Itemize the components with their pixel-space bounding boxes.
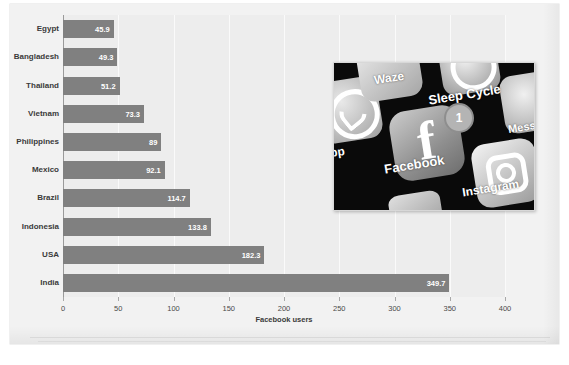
bar-value-label: 349.7 <box>427 278 446 287</box>
x-tick-label: 200 <box>264 304 304 313</box>
instagram-icon <box>469 136 535 209</box>
notification-badge: 1 <box>444 103 474 133</box>
bar-row[interactable]: 73.3 <box>63 105 144 123</box>
bar-row[interactable]: 349.7 <box>63 274 449 292</box>
x-tick-label: 250 <box>319 304 359 313</box>
paper-edge-line <box>30 337 550 338</box>
bar-value-label: 92.1 <box>146 166 161 175</box>
partial-app-icon <box>387 189 445 211</box>
scanned-page: Facebook users, 2022 45.949.351.273.3899… <box>0 0 569 365</box>
category-label-egypt: Egypt <box>0 24 59 33</box>
bar-row[interactable]: 51.2 <box>63 77 120 95</box>
bar-value-label: 51.2 <box>101 81 116 90</box>
category-label-indonesia: Indonesia <box>0 222 59 231</box>
x-tick-label: 300 <box>375 304 415 313</box>
x-tick-label: 50 <box>98 304 138 313</box>
bar-philippines[interactable]: 89 <box>63 133 161 151</box>
bar-value-label: 73.3 <box>125 109 140 118</box>
bar-egypt[interactable]: 45.9 <box>63 20 114 38</box>
x-tick-label: 0 <box>43 304 83 313</box>
bar-mexico[interactable]: 92.1 <box>63 161 165 179</box>
x-tick-label: 150 <box>209 304 249 313</box>
category-label-vietnam: Vietnam <box>0 109 59 118</box>
bar-value-label: 114.7 <box>167 194 185 203</box>
bar-value-label: 45.9 <box>95 25 110 34</box>
category-label-philippines: Philippines <box>0 137 59 146</box>
bar-vietnam[interactable]: 73.3 <box>63 105 144 123</box>
bar-row[interactable]: 45.9 <box>63 20 114 38</box>
x-tick-label: 400 <box>485 304 525 313</box>
bar-row[interactable]: 182.3 <box>63 246 264 264</box>
tick-mark <box>63 297 64 301</box>
paper-edge-line-secondary <box>38 341 546 342</box>
bar-row[interactable]: 89 <box>63 133 161 151</box>
bar-row[interactable]: 49.3 <box>63 48 117 66</box>
category-label-thailand: Thailand <box>0 81 59 90</box>
bar-row[interactable]: 92.1 <box>63 161 165 179</box>
tick-mark <box>174 297 175 301</box>
bar-value-label: 89 <box>149 137 157 146</box>
facebook-app-icon-photo: f 1 Waze Sleep Cycle Mess pp Facebook In… <box>333 62 535 211</box>
tick-mark <box>339 297 340 301</box>
tick-mark <box>229 297 230 301</box>
x-axis-title: Facebook users <box>63 315 505 324</box>
whatsapp-label: pp <box>333 144 346 160</box>
category-label-india: India <box>0 278 59 287</box>
bar-india[interactable]: 349.7 <box>63 274 449 292</box>
bar-value-label: 182.3 <box>242 250 261 259</box>
bar-indonesia[interactable]: 133.8 <box>63 218 211 236</box>
tick-mark <box>450 297 451 301</box>
bar-bangladesh[interactable]: 49.3 <box>63 48 117 66</box>
bar-row[interactable]: 133.8 <box>63 218 211 236</box>
category-label-usa: USA <box>0 250 59 259</box>
category-label-mexico: Mexico <box>0 165 59 174</box>
category-label-brazil: Brazil <box>0 193 59 202</box>
bar-row[interactable]: 114.7 <box>63 189 190 207</box>
bar-value-label: 133.8 <box>188 222 207 231</box>
bar-brazil[interactable]: 114.7 <box>63 189 190 207</box>
tick-mark <box>395 297 396 301</box>
x-tick-label: 350 <box>430 304 470 313</box>
tick-mark <box>284 297 285 301</box>
category-label-bangladesh: Bangladesh <box>0 52 59 61</box>
bar-thailand[interactable]: 51.2 <box>63 77 120 95</box>
tick-mark <box>118 297 119 301</box>
x-tick-label: 100 <box>154 304 194 313</box>
bar-value-label: 49.3 <box>99 53 114 62</box>
tick-mark <box>505 297 506 301</box>
bar-usa[interactable]: 182.3 <box>63 246 264 264</box>
